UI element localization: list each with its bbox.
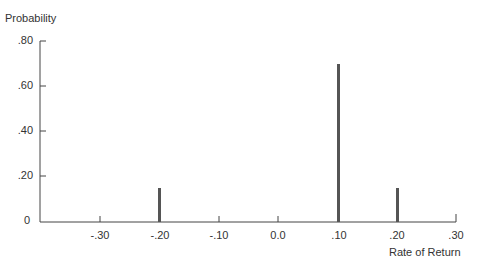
x-tick-label: .20 bbox=[377, 229, 417, 241]
bar-10 bbox=[337, 64, 340, 222]
x-tick-label: -.10 bbox=[199, 229, 239, 241]
y-tick-label: 0 bbox=[0, 214, 30, 226]
y-tick-label: .60 bbox=[3, 79, 33, 91]
x-axis-title: Rate of Return bbox=[389, 246, 461, 258]
plot-area bbox=[0, 0, 479, 268]
bar-neg-20 bbox=[158, 188, 161, 222]
x-tick-label: .30 bbox=[436, 229, 476, 241]
y-tick-label: .80 bbox=[3, 34, 33, 46]
y-tick-label: .40 bbox=[3, 124, 33, 136]
x-tick-label: 0.0 bbox=[258, 229, 298, 241]
x-tick-label: -.30 bbox=[80, 229, 120, 241]
x-tick-label: .10 bbox=[319, 229, 359, 241]
y-tick-label: .20 bbox=[3, 169, 33, 181]
bar-20 bbox=[396, 188, 399, 222]
x-tick-label: -.20 bbox=[140, 229, 180, 241]
